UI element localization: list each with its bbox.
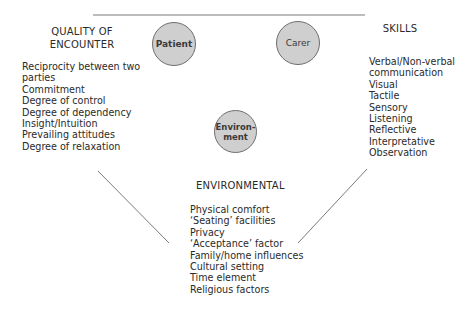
list-item: Interpretative (369, 136, 455, 147)
list-item: Degree of relaxation (22, 141, 140, 152)
list-item: Cultural setting (190, 261, 303, 272)
list-item: Verbal/Non-verbal (369, 56, 455, 67)
left-diagonal-line (98, 171, 169, 243)
list-item: Observation (369, 147, 455, 158)
list-item: Reflective (369, 124, 455, 135)
quality-heading: QUALITY OF ENCOUNTER (22, 25, 142, 51)
skills-heading: SKILLS (370, 22, 430, 35)
list-item: Privacy (190, 227, 303, 238)
right-diagonal-line (298, 169, 367, 243)
list-item: Reciprocity between two (22, 61, 140, 72)
list-item: Family/home influences (190, 250, 303, 261)
list-item: Listening (369, 113, 455, 124)
carer-node: Carer (276, 21, 320, 65)
environmental-list: Physical comfort ‘Seating’ facilities Pr… (190, 204, 303, 295)
carer-label: Carer (286, 38, 311, 49)
list-item: communication (369, 67, 455, 78)
list-item: Sensory (369, 102, 455, 113)
environment-label: Environ- ment (216, 122, 256, 142)
list-item: Degree of dependency (22, 107, 140, 118)
patient-node: Patient (152, 22, 196, 66)
list-item: parties (22, 72, 140, 83)
list-item: Prevailing attitudes (22, 129, 140, 140)
list-item: Commitment (22, 84, 140, 95)
list-item: ‘Seating’ facilities (190, 215, 303, 226)
quality-list: Reciprocity between two parties Commitme… (22, 61, 140, 152)
list-item: Insight/Intuition (22, 118, 140, 129)
list-item: Time element (190, 272, 303, 283)
list-item: Religious factors (190, 284, 303, 295)
list-item: Degree of control (22, 95, 140, 106)
list-item: Physical comfort (190, 204, 303, 215)
environment-node: Environ- ment (214, 110, 257, 153)
list-item: Visual (369, 79, 455, 90)
environmental-heading: ENVIRONMENTAL (196, 179, 285, 192)
patient-label: Patient (156, 39, 193, 50)
skills-list: Verbal/Non-verbal communication Visual T… (369, 56, 455, 159)
list-item: ‘Acceptance’ factor (190, 238, 303, 249)
list-item: Tactile (369, 90, 455, 101)
